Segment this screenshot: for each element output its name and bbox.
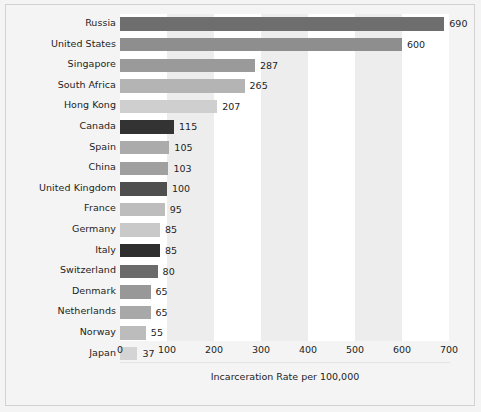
x-axis-title: Incarceration Rate per 100,000 (120, 371, 450, 382)
bar (120, 182, 167, 195)
bar-value-label: 80 (163, 265, 175, 278)
bar-row: China103 (0, 158, 481, 179)
bar-value-label: 287 (260, 59, 278, 72)
bar (120, 38, 402, 51)
bar-row: South Africa265 (0, 76, 481, 97)
category-label: Russia (0, 17, 116, 29)
bar-value-label: 690 (449, 17, 467, 30)
bar (120, 100, 217, 113)
bar-row: Italy85 (0, 241, 481, 262)
bar-container: 115 (120, 120, 174, 133)
bar (120, 223, 160, 236)
bar (120, 162, 168, 175)
bar-row: Russia690 (0, 14, 481, 35)
bar-container: 105 (120, 141, 169, 154)
category-label: Singapore (0, 58, 116, 70)
bar-value-label: 207 (222, 100, 240, 113)
bar (120, 79, 245, 92)
bar-row: Spain105 (0, 138, 481, 159)
bar-container: 100 (120, 182, 167, 195)
bar-row: France95 (0, 199, 481, 220)
bar-value-label: 103 (173, 162, 191, 175)
bar-row: Canada115 (0, 117, 481, 138)
category-label: Japan (0, 347, 116, 359)
bar (120, 306, 151, 319)
bar-container: 65 (120, 285, 151, 298)
bar-value-label: 95 (170, 203, 182, 216)
bar-value-label: 100 (172, 182, 190, 195)
category-label: China (0, 161, 116, 173)
category-label: Canada (0, 120, 116, 132)
category-label: France (0, 202, 116, 214)
bar (120, 17, 444, 30)
x-axis-ticks: 0100200300400500600700 (120, 341, 449, 361)
bar (120, 59, 255, 72)
x-tick-label: 700 (440, 344, 458, 356)
bar-value-label: 265 (250, 79, 268, 92)
bar-row: Netherlands65 (0, 302, 481, 323)
bar-container: 85 (120, 223, 160, 236)
category-label: South Africa (0, 79, 116, 91)
x-tick-label: 500 (346, 344, 364, 356)
bar (120, 265, 158, 278)
bar (120, 285, 151, 298)
x-tick-label: 0 (117, 344, 123, 356)
bar-container: 65 (120, 306, 151, 319)
bar (120, 141, 169, 154)
bar-container: 103 (120, 162, 168, 175)
bar-value-label: 55 (151, 326, 163, 339)
bar-container: 287 (120, 59, 255, 72)
category-label: Norway (0, 326, 116, 338)
bar-value-label: 105 (174, 141, 192, 154)
bar-container: 80 (120, 265, 158, 278)
bar (120, 326, 146, 339)
category-label: Germany (0, 223, 116, 235)
bar-row: Hong Kong207 (0, 96, 481, 117)
x-tick-label: 200 (205, 344, 223, 356)
bar-container: 95 (120, 203, 165, 216)
category-label: Netherlands (0, 305, 116, 317)
bar-container: 265 (120, 79, 245, 92)
bar-container: 55 (120, 326, 146, 339)
bar-row: United Kingdom100 (0, 179, 481, 200)
bar-row: Denmark65 (0, 282, 481, 303)
category-label: United States (0, 38, 116, 50)
bar-value-label: 115 (179, 120, 197, 133)
bar-row: United States600 (0, 35, 481, 56)
bar-container: 600 (120, 38, 402, 51)
bar-rows: Russia690United States600Singapore287Sou… (0, 14, 481, 364)
chart-figure: Russia690United States600Singapore287Sou… (0, 0, 481, 412)
x-tick-label: 600 (393, 344, 411, 356)
category-label: Switzerland (0, 264, 116, 276)
bar-value-label: 600 (407, 38, 425, 51)
bar-row: Singapore287 (0, 55, 481, 76)
category-label: United Kingdom (0, 182, 116, 194)
bar-row: Switzerland80 (0, 261, 481, 282)
x-tick-label: 300 (252, 344, 270, 356)
bar (120, 120, 174, 133)
category-label: Denmark (0, 285, 116, 297)
x-tick-label: 100 (158, 344, 176, 356)
category-label: Hong Kong (0, 99, 116, 111)
bar-container: 85 (120, 244, 160, 257)
category-label: Spain (0, 141, 116, 153)
bar-value-label: 85 (165, 244, 177, 257)
bar-container: 207 (120, 100, 217, 113)
x-tick-label: 400 (299, 344, 317, 356)
bar-value-label: 65 (156, 285, 168, 298)
bar-row: Germany85 (0, 220, 481, 241)
bar-container: 690 (120, 17, 444, 30)
bar (120, 244, 160, 257)
bar (120, 203, 165, 216)
bar-value-label: 85 (165, 223, 177, 236)
category-label: Italy (0, 244, 116, 256)
bar-value-label: 65 (156, 306, 168, 319)
x-axis-rule (120, 362, 450, 363)
